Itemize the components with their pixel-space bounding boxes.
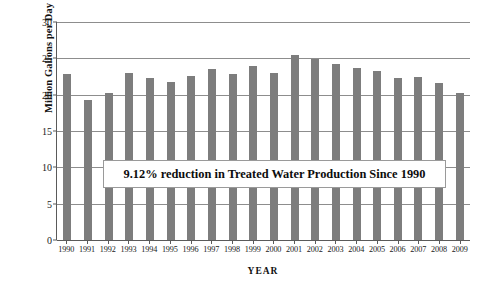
bar-cell: [202, 22, 223, 240]
x-tick-label-2000: 2000: [263, 245, 284, 254]
bar-1994: [146, 78, 154, 240]
y-tick-label-25: 25: [42, 53, 57, 64]
bar-cell: [119, 22, 140, 240]
y-axis-title-container: Million Gallons per Day (MGD): [6, 14, 22, 230]
bar-2001: [291, 55, 299, 240]
x-tick-label-1991: 1991: [77, 245, 98, 254]
x-tick-label-2007: 2007: [408, 245, 429, 254]
y-tick-label-20: 20: [42, 89, 57, 100]
x-tick-label-1995: 1995: [160, 245, 181, 254]
x-tick-label-2005: 2005: [367, 245, 388, 254]
x-tick-label-1999: 1999: [242, 245, 263, 254]
x-tick-label-1993: 1993: [118, 245, 139, 254]
bar-cell: [222, 22, 243, 240]
y-tick-label-10: 10: [42, 162, 57, 173]
x-tick-label-2004: 2004: [346, 245, 367, 254]
bar-cell: [388, 22, 409, 240]
bar-1996: [187, 76, 195, 240]
y-tick-label-30: 30: [42, 17, 57, 28]
bar-cell: [181, 22, 202, 240]
bar-cell: [243, 22, 264, 240]
x-tick-labels: 1990199119921993199419951996199719981999…: [56, 245, 470, 254]
bar-2002: [311, 59, 319, 240]
x-tick-label-1998: 1998: [222, 245, 243, 254]
chart-figure: Million Gallons per Day (MGD) 0510152025…: [0, 0, 482, 294]
bar-2007: [414, 77, 422, 240]
bar-1997: [208, 69, 216, 240]
bar-2005: [373, 71, 381, 240]
x-tick-label-2006: 2006: [387, 245, 408, 254]
bar-series: [57, 22, 470, 240]
bar-1999: [249, 66, 257, 240]
bar-cell: [449, 22, 470, 240]
x-tick-label-2002: 2002: [304, 245, 325, 254]
bar-cell: [160, 22, 181, 240]
bar-cell: [429, 22, 450, 240]
bar-2004: [353, 68, 361, 240]
bar-cell: [408, 22, 429, 240]
x-tick-label-2003: 2003: [325, 245, 346, 254]
bar-1998: [229, 74, 237, 240]
x-tick-label-1992: 1992: [97, 245, 118, 254]
bar-cell: [264, 22, 285, 240]
plot-area: 051015202530: [56, 22, 470, 240]
bar-cell: [367, 22, 388, 240]
x-axis-title: YEAR: [56, 266, 470, 276]
x-tick-label-1990: 1990: [56, 245, 77, 254]
bar-cell: [346, 22, 367, 240]
bar-cell: [140, 22, 161, 240]
bar-2003: [332, 64, 340, 240]
x-tick-label-1996: 1996: [180, 245, 201, 254]
x-tick-label-2009: 2009: [449, 245, 470, 254]
x-axis: 1990199119921993199419951996199719981999…: [56, 240, 470, 262]
annotation-callout: 9.12% reduction in Treated Water Product…: [103, 160, 446, 188]
x-tick-label-1997: 1997: [201, 245, 222, 254]
y-tick-label-5: 5: [47, 198, 57, 209]
annotation-text: 9.12% reduction in Treated Water Product…: [124, 167, 426, 182]
bar-2009: [456, 93, 464, 240]
bar-cell: [305, 22, 326, 240]
bar-1991: [84, 100, 92, 240]
y-tick-label-15: 15: [42, 126, 57, 137]
bar-1993: [125, 73, 133, 240]
x-tick-label-2001: 2001: [284, 245, 305, 254]
bar-2006: [394, 78, 402, 240]
bar-2000: [270, 73, 278, 240]
bar-cell: [98, 22, 119, 240]
x-tick-label-2008: 2008: [429, 245, 450, 254]
x-tick-label-1994: 1994: [139, 245, 160, 254]
bar-cell: [78, 22, 99, 240]
bar-cell: [57, 22, 78, 240]
bar-cell: [326, 22, 347, 240]
bar-cell: [284, 22, 305, 240]
bar-1990: [63, 74, 71, 240]
